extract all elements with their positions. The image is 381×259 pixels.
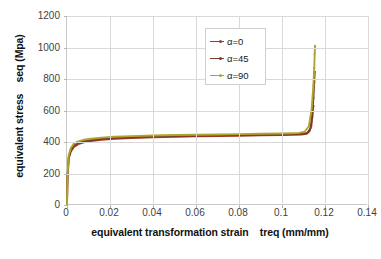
series-marker bbox=[312, 84, 314, 86]
y-tick-mark bbox=[64, 79, 67, 80]
y-tick-mark bbox=[64, 111, 67, 112]
x-tick-label: 0.06 bbox=[175, 207, 215, 218]
gridline-horizontal bbox=[67, 142, 368, 143]
y-tick-label: 1200 bbox=[28, 11, 60, 21]
series-marker bbox=[313, 67, 315, 69]
series-line-0 bbox=[67, 106, 313, 205]
y-axis-title: equivalent stress seq (Mpa) bbox=[13, 11, 25, 201]
x-tick-label: 0.04 bbox=[132, 207, 172, 218]
x-tick-label: 0.08 bbox=[218, 207, 258, 218]
y-tick-mark bbox=[64, 48, 67, 49]
chart-legend: α=0α=45α=90 bbox=[205, 28, 266, 85]
y-axis-tick-labels: 020040060080010001200 bbox=[26, 0, 60, 259]
gridline-vertical bbox=[368, 16, 369, 205]
legend-label: α=90 bbox=[227, 70, 249, 81]
gridline-vertical bbox=[153, 16, 154, 205]
gridline-vertical bbox=[110, 16, 111, 205]
y-tick-label: 1000 bbox=[28, 43, 60, 53]
series-line-45 bbox=[67, 72, 315, 205]
gridline-vertical bbox=[325, 16, 326, 205]
legend-item-1[interactable]: α=45 bbox=[210, 51, 249, 65]
y-tick-mark bbox=[64, 16, 67, 17]
gridline-horizontal bbox=[67, 174, 368, 175]
gridline-vertical bbox=[196, 16, 197, 205]
x-axis-title: equivalent transformation strain treq (m… bbox=[40, 226, 380, 238]
x-tick-label: 0.12 bbox=[304, 207, 344, 218]
legend-marker-dot bbox=[219, 40, 222, 43]
x-tick-label: 0 bbox=[46, 207, 86, 218]
y-tick-label: 600 bbox=[28, 106, 60, 116]
x-tick-label: 0.14 bbox=[347, 207, 381, 218]
series-line-90 bbox=[67, 46, 315, 205]
x-tick-label: 0.1 bbox=[261, 207, 301, 218]
legend-label: α=0 bbox=[227, 36, 243, 47]
y-tick-label: 800 bbox=[28, 74, 60, 84]
legend-marker-dot bbox=[219, 74, 222, 77]
chart-container: equivalent stress seq (Mpa) 020040060080… bbox=[0, 0, 381, 259]
series-marker bbox=[314, 53, 316, 55]
y-tick-label: 200 bbox=[28, 169, 60, 179]
legend-label: α=45 bbox=[227, 53, 249, 64]
legend-item-0[interactable]: α=0 bbox=[210, 34, 243, 48]
legend-item-2[interactable]: α=90 bbox=[210, 68, 249, 82]
gridline-horizontal bbox=[67, 111, 368, 112]
y-tick-mark bbox=[64, 174, 67, 175]
legend-marker-dot bbox=[219, 57, 222, 60]
gridline-horizontal bbox=[67, 16, 368, 17]
y-tick-label: 400 bbox=[28, 137, 60, 147]
x-tick-label: 0.02 bbox=[89, 207, 129, 218]
gridline-vertical bbox=[282, 16, 283, 205]
y-tick-mark bbox=[64, 142, 67, 143]
